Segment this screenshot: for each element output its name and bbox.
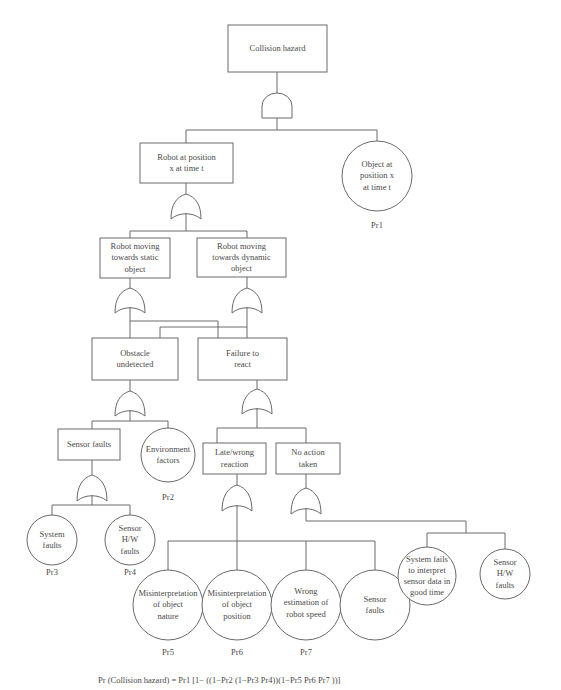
and-gate-icon (262, 93, 292, 118)
object-at-position-label: Object at position x at time t (342, 146, 412, 206)
robot-moving-static-label: Robot moving towards static object (100, 238, 170, 278)
sensor-hw-faults-2-label: Sensor H/W faults (480, 554, 530, 594)
obstacle-undetected-label: Obstacle undetected (92, 338, 178, 380)
prob-pr5: Pr5 (148, 647, 188, 657)
late-wrong-reaction-label: Late/wrong reaction (203, 443, 266, 474)
prob-pr6: Pr6 (217, 647, 257, 657)
collision-hazard-label: Collision hazard (228, 25, 327, 72)
prob-pr1: Pr1 (357, 220, 397, 230)
prob-pr3: Pr3 (32, 567, 72, 577)
environment-factors-label: Environment factors (141, 440, 195, 470)
misinterpretation-nature-label: Misinterpretation of object nature (133, 585, 203, 625)
probability-formula: Pr (Collision hazard) = Pr1 [1− ((1−Pr2 … (98, 675, 340, 685)
prob-pr7: Pr7 (286, 647, 326, 657)
system-faults-label: System faults (27, 525, 77, 555)
robot-at-position-label: Robot at position x at time t (140, 143, 233, 183)
sensor-faults-box-label: Sensor faults (58, 429, 120, 460)
failure-to-react-label: Failure to react (198, 338, 287, 380)
sensor-faults-circle-label: Sensor faults (345, 590, 405, 620)
system-fails-interpret-label: System fails to interpret sensor data in… (397, 551, 457, 601)
misinterpretation-position-label: Misinterpretation of object position (202, 585, 272, 625)
sensor-hw-faults-label: Sensor H/W faults (105, 520, 155, 560)
no-action-taken-label: No action taken (276, 443, 340, 474)
prob-pr4: Pr4 (110, 567, 150, 577)
robot-moving-dynamic-label: Robot moving towards dynamic object (197, 238, 286, 277)
wrong-estimation-speed-label: Wrong estimation of robot speed (271, 583, 341, 623)
prob-pr2: Pr2 (148, 492, 188, 502)
fault-tree-diagram: Collision hazard Robot at position x at … (0, 0, 561, 690)
